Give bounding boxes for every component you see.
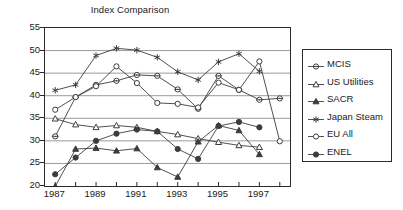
y-axis-tick-label: 30 xyxy=(18,135,40,145)
y-axis-tick-label: 25 xyxy=(18,157,40,167)
x-axis-tick-label: 1995 xyxy=(207,189,228,199)
legend-item-label: SACR xyxy=(326,93,353,104)
y-axis-tick-label: 40 xyxy=(18,90,40,100)
x-axis-tick-label: 1991 xyxy=(125,189,146,199)
legend-item-us-utilities[interactable]: US Utilities xyxy=(307,73,391,91)
circle-marker-icon xyxy=(307,128,326,139)
legend-item-mcis[interactable]: MCIS xyxy=(307,55,391,73)
triangle-marker-icon xyxy=(307,93,326,104)
y-axis-tick-label: 55 xyxy=(18,22,40,32)
y-axis: 2025303540455055 xyxy=(14,0,40,210)
plot-area xyxy=(44,27,291,187)
triangle-marker-icon xyxy=(307,76,326,87)
legend-item-label: MCIS xyxy=(326,58,351,69)
legend-item-label: US Utilities xyxy=(326,76,373,87)
circle-marker-icon xyxy=(307,146,326,157)
legend-item-eu-all[interactable]: EU All xyxy=(307,125,391,143)
legend-item-sacr[interactable]: SACR xyxy=(307,90,391,108)
y-axis-tick-label: 45 xyxy=(18,67,40,77)
circle-dot-marker-icon xyxy=(307,58,326,69)
x-axis-tick-label: 1987 xyxy=(44,189,65,199)
y-axis-tick-label: 50 xyxy=(18,45,40,55)
legend-item-label: ENEL xyxy=(326,146,352,157)
asterisk-marker-icon xyxy=(307,111,326,122)
plot-svg xyxy=(45,28,290,186)
chart-legend: MCISUS UtilitiesSACRJapan SteamEU AllENE… xyxy=(302,49,392,162)
x-axis-tick-label: 1993 xyxy=(166,189,187,199)
legend-item-japan-steam[interactable]: Japan Steam xyxy=(307,108,391,126)
x-axis-tick-label: 1997 xyxy=(248,189,269,199)
legend-item-enel[interactable]: ENEL xyxy=(307,143,391,161)
chart-container: Index Comparison 2025303540455055 198719… xyxy=(0,0,403,210)
legend-item-label: Japan Steam xyxy=(326,111,383,122)
x-axis-tick-label: 1989 xyxy=(84,189,105,199)
y-axis-tick-label: 35 xyxy=(18,112,40,122)
legend-item-label: EU All xyxy=(326,128,353,139)
x-axis: 198719891991199319951997 xyxy=(0,189,403,207)
